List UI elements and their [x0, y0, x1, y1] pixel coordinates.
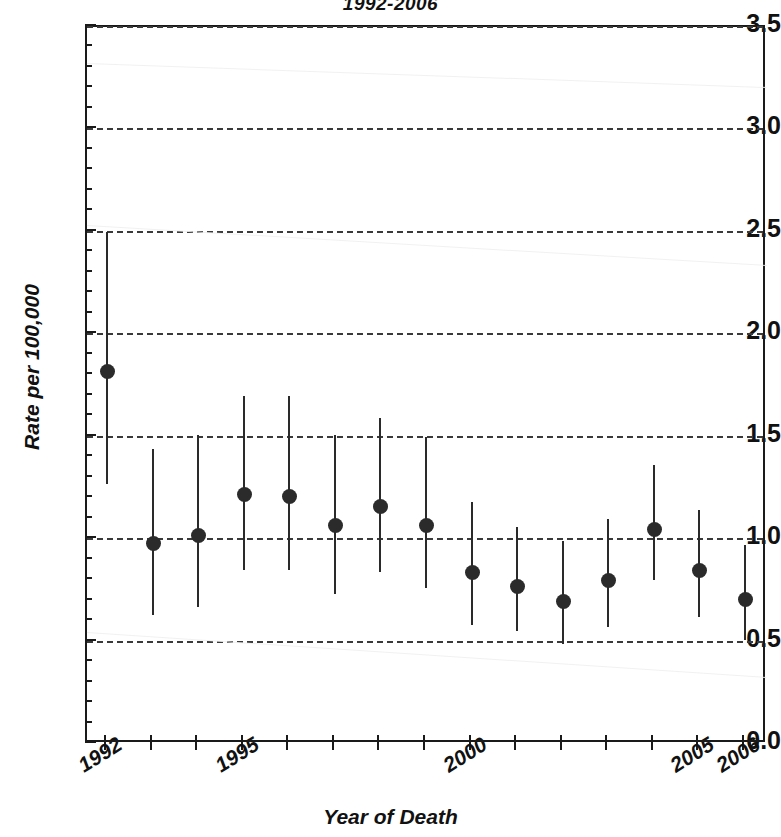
plot-area	[85, 25, 765, 742]
y-axis-title: Rate per 100,000	[20, 217, 44, 517]
gridline	[87, 128, 763, 130]
error-bar	[334, 435, 336, 595]
error-bar	[106, 232, 108, 484]
data-point-marker	[373, 499, 388, 514]
chart-page: 1992-2006 Rate per 100,000 Year of Death…	[0, 0, 781, 837]
data-point-marker	[510, 579, 525, 594]
error-bar	[288, 396, 290, 570]
data-point-marker	[465, 565, 480, 580]
data-point-marker	[146, 536, 161, 551]
error-bar	[471, 502, 473, 625]
data-point-marker	[738, 592, 753, 607]
x-axis-title: Year of Death	[0, 805, 781, 829]
data-point-marker	[282, 489, 297, 504]
error-bar	[243, 396, 245, 570]
error-bar	[197, 435, 199, 607]
data-point-marker	[601, 573, 616, 588]
error-bar	[425, 437, 427, 589]
chart-title: 1992-2006	[0, 0, 781, 13]
scan-artifact-line	[87, 63, 767, 88]
data-point-marker	[100, 364, 115, 379]
gridline	[87, 26, 763, 28]
data-point-marker	[419, 518, 434, 533]
scan-artifact-line	[87, 632, 767, 678]
data-point-marker	[237, 487, 252, 502]
gridline	[87, 333, 763, 335]
data-point-marker	[556, 594, 571, 609]
error-bar	[152, 449, 154, 615]
error-bar	[379, 418, 381, 572]
gridline	[87, 641, 763, 643]
data-point-marker	[191, 528, 206, 543]
data-point-marker	[328, 518, 343, 533]
data-point-marker	[647, 522, 662, 537]
data-point-marker	[692, 563, 707, 578]
error-bar	[562, 541, 564, 643]
